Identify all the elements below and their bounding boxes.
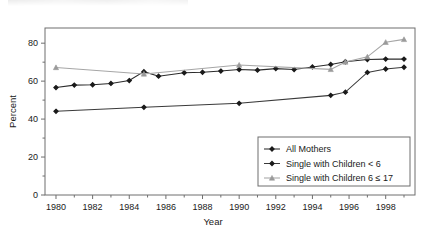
data-point-1-1 (142, 105, 146, 109)
data-point-1-5 (365, 70, 369, 74)
data-point-1-0 (54, 109, 58, 113)
x-tick-label-1994: 1994 (302, 202, 322, 212)
x-tick-label-1996: 1996 (339, 202, 359, 212)
y-tick-label-20: 20 (28, 152, 38, 162)
legend-marker-0 (270, 147, 274, 151)
data-point-0-18 (384, 57, 388, 61)
legend-label-0: All Mothers (286, 144, 332, 154)
y-axis-title: Percent (7, 95, 18, 128)
data-point-0-4 (127, 79, 131, 83)
data-point-0-9 (219, 69, 223, 73)
data-point-1-2 (237, 101, 241, 105)
data-point-0-11 (255, 68, 259, 72)
x-tick-label-1992: 1992 (266, 202, 286, 212)
series-line-1 (56, 67, 404, 111)
data-point-0-19 (402, 57, 406, 61)
x-tick-label-1988: 1988 (193, 202, 213, 212)
data-point-1-4 (343, 90, 347, 94)
data-point-1-7 (402, 65, 406, 69)
legend-label-1: Single with Children < 6 (286, 159, 381, 169)
x-tick-label-1982: 1982 (83, 202, 103, 212)
x-tick-label-1984: 1984 (119, 202, 139, 212)
legend-marker-1 (270, 162, 274, 166)
y-tick-label-0: 0 (33, 190, 38, 200)
y-tick-label-40: 40 (28, 114, 38, 124)
data-point-0-2 (91, 83, 95, 87)
y-tick-label-80: 80 (28, 38, 38, 48)
x-tick-label-1990: 1990 (229, 202, 249, 212)
x-axis-title: Year (203, 216, 222, 227)
data-point-0-6 (157, 74, 161, 78)
data-point-0-1 (72, 83, 76, 87)
data-point-0-15 (329, 62, 333, 66)
legend-label-2: Single with Children 6 ≤ 17 (286, 173, 393, 183)
x-tick-label-1998: 1998 (376, 202, 396, 212)
series-line-2 (56, 39, 404, 74)
x-tick-label-1986: 1986 (156, 202, 176, 212)
data-point-1-6 (384, 67, 388, 71)
data-point-0-3 (109, 81, 113, 85)
y-tick-label-60: 60 (28, 76, 38, 86)
data-point-0-10 (237, 68, 241, 72)
data-point-0-0 (54, 86, 58, 90)
chart-figure: 0204060801980198219841986198819901992199… (0, 0, 426, 245)
x-tick-label-1980: 1980 (46, 202, 66, 212)
data-point-0-7 (182, 71, 186, 75)
data-point-1-3 (329, 93, 333, 97)
line-chart: 0204060801980198219841986198819901992199… (0, 0, 426, 245)
data-point-0-8 (201, 70, 205, 74)
